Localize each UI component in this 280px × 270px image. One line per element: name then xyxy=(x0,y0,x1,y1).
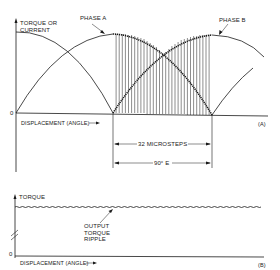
zero-label-a: 0 xyxy=(10,110,13,117)
panel-b-tag: (b) xyxy=(258,262,266,269)
ripple-label: OUTPUT TORQUE RIPPLE xyxy=(84,223,110,243)
panel-a xyxy=(15,18,269,172)
x-axis-label-a: DISPLACEMENT (ANGLE) xyxy=(21,120,90,127)
arrow-left-icon xyxy=(114,143,119,146)
zero-label-b: 0 xyxy=(9,251,12,258)
torque-ripple-line xyxy=(15,207,261,208)
panel-a-x-axis xyxy=(16,113,268,116)
ripple-label-line1: OUTPUT xyxy=(84,223,110,230)
panel-b xyxy=(11,194,264,265)
arrow-left-icon xyxy=(114,162,119,165)
y-axis-label-line2: CURRENT xyxy=(20,27,57,34)
arrow-right-icon xyxy=(93,262,97,265)
phase-a-curve-rise xyxy=(16,34,113,113)
arrow-right-icon xyxy=(206,162,211,165)
phase-b-curve-fall xyxy=(212,35,264,57)
y-axis-label-b: TORQUE xyxy=(19,194,45,201)
y-axis-arrow-icon xyxy=(14,194,17,199)
phase-a-label: PHASE A xyxy=(80,15,106,22)
microstep-hatching xyxy=(116,34,209,115)
arrow-right-icon xyxy=(96,122,100,125)
arrow-right-icon xyxy=(206,143,211,146)
y-axis-label-line1: TORQUE OR xyxy=(20,20,57,27)
microstepping-diagram xyxy=(0,0,280,270)
ripple-label-line3: RIPPLE xyxy=(84,236,110,243)
phase-b-label: PHASE B xyxy=(219,17,246,24)
y-axis-arrow-icon xyxy=(15,18,18,23)
panel-b-x-axis xyxy=(15,256,264,257)
microsteps-label: 32 MICROSTEPS xyxy=(138,141,187,148)
electrical-angle-label: 90° E xyxy=(154,160,169,167)
previous-phase-curve xyxy=(16,32,113,113)
y-axis-label-a: TORQUE OR CURRENT xyxy=(20,20,57,33)
x-axis-label-b: DISPLACEMENT (ANGLE) xyxy=(20,260,89,267)
next-phase-curve xyxy=(212,68,253,115)
panel-a-tag: (a) xyxy=(258,121,266,128)
